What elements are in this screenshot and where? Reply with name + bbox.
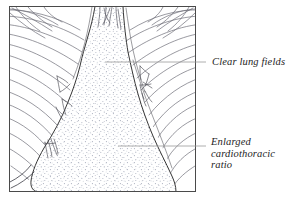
label-line-2: cardiothoracic (211, 148, 275, 159)
label-line-3: ratio (211, 159, 232, 170)
chest-xray-figure: Clear lung fields Enlargedcardiothoracic… (0, 0, 290, 199)
annotation-label-enlarged-cardiothoracic-ratio: Enlargedcardiothoracicratio (211, 136, 275, 171)
annotation-label-clear-lung-fields: Clear lung fields (212, 56, 285, 68)
label-line-1: Enlarged (211, 136, 251, 147)
